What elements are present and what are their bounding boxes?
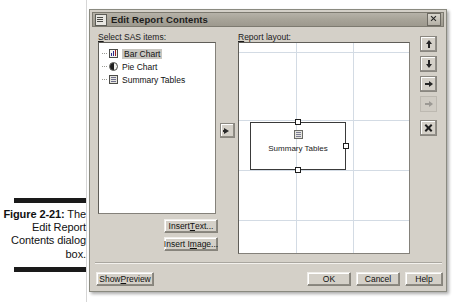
delete-button[interactable] bbox=[420, 120, 437, 136]
show-preview-button[interactable]: Show Preview bbox=[96, 272, 154, 286]
grid-line-horizontal bbox=[239, 170, 409, 171]
select-sas-items-label: Select SAS items: bbox=[98, 32, 166, 42]
summary-table-icon bbox=[109, 75, 118, 84]
edit-report-contents-dialog: Edit Report Contents Select SAS items: B… bbox=[89, 9, 447, 292]
caption-text: Figure 2-21: The Edit Report Contents di… bbox=[0, 203, 88, 263]
grid-line-horizontal bbox=[239, 52, 409, 53]
list-item-label: Pie Chart bbox=[122, 62, 157, 72]
resize-handle-bottom[interactable] bbox=[295, 167, 301, 173]
move-down-button[interactable] bbox=[420, 56, 437, 72]
list-item-label: Bar Chart bbox=[122, 49, 162, 59]
bring-forward-button[interactable] bbox=[420, 76, 437, 92]
report-layout-canvas[interactable]: Summary Tables bbox=[238, 42, 410, 254]
insert-image-button[interactable]: Insert Image... bbox=[164, 237, 218, 251]
ok-button[interactable]: OK bbox=[307, 272, 351, 286]
move-up-button[interactable] bbox=[420, 36, 437, 52]
dialog-titlebar[interactable]: Edit Report Contents bbox=[92, 12, 444, 27]
cancel-button[interactable]: Cancel bbox=[356, 272, 400, 286]
grid-line-horizontal bbox=[239, 220, 409, 221]
list-item[interactable]: Bar Chart bbox=[99, 47, 215, 60]
arrow-down-icon bbox=[426, 64, 432, 68]
report-layout-label: Report layout: bbox=[238, 32, 291, 42]
arrow-up-icon-tail bbox=[428, 44, 430, 48]
list-item[interactable]: Summary Tables bbox=[99, 73, 215, 86]
footer-divider bbox=[95, 262, 442, 264]
arrow-right-icon bbox=[429, 81, 433, 87]
layout-toolbar bbox=[420, 36, 440, 144]
bar-chart-icon bbox=[109, 49, 118, 58]
grid-line-vertical bbox=[353, 43, 354, 253]
resize-handle-right[interactable] bbox=[343, 143, 349, 149]
dialog-title: Edit Report Contents bbox=[111, 14, 427, 25]
list-item-label: Summary Tables bbox=[122, 75, 185, 85]
grid-line-horizontal bbox=[239, 120, 409, 121]
list-item[interactable]: Pie Chart bbox=[99, 60, 215, 73]
pie-chart-icon bbox=[109, 62, 118, 71]
arrow-up-icon bbox=[426, 40, 432, 44]
document-window-icon bbox=[95, 14, 107, 26]
caption-rule-bottom bbox=[14, 267, 86, 272]
report-object-label: Summary Tables bbox=[251, 144, 345, 153]
summary-table-icon bbox=[294, 130, 303, 139]
caption-label: Figure 2-21: bbox=[3, 208, 64, 220]
sas-items-list[interactable]: Bar Chart Pie Chart Summary Tables bbox=[98, 42, 216, 214]
add-to-layout-button[interactable] bbox=[220, 123, 235, 138]
close-icon[interactable] bbox=[427, 13, 441, 26]
send-backward-button bbox=[420, 96, 437, 112]
insert-text-button[interactable]: Insert Text... bbox=[164, 219, 218, 233]
help-button[interactable]: Help bbox=[405, 272, 443, 286]
resize-handle-top[interactable] bbox=[295, 119, 301, 125]
summary-tables-object[interactable]: Summary Tables bbox=[250, 122, 346, 170]
arrow-right-icon bbox=[429, 101, 433, 107]
arrow-right-icon bbox=[224, 128, 229, 134]
figure-caption: Figure 2-21: The Edit Report Contents di… bbox=[0, 198, 88, 272]
